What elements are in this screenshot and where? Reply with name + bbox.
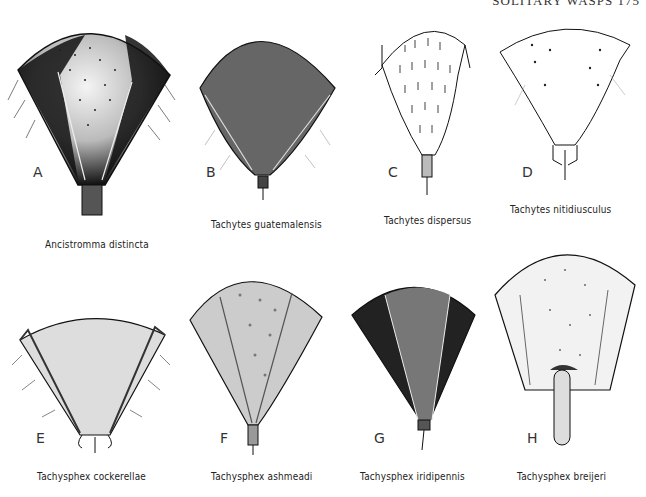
caption-h: Tachysphex breijeri (517, 470, 606, 482)
caption-d: Tachytes nitidiusculus (510, 203, 611, 215)
caption-e: Tachysphex cockerellae (37, 470, 146, 482)
caption-a: Ancistromma distincta (45, 238, 149, 250)
caption-c: Tachytes dispersus (384, 214, 471, 226)
caption-f: Tachysphex ashmeadi (211, 470, 313, 482)
figure-label-g: G (374, 430, 385, 446)
figure-label-b: B (206, 164, 216, 180)
figure-label-a: A (33, 164, 43, 180)
caption-g: Tachysphex iridipennis (360, 470, 465, 482)
figure-label-c: C (388, 164, 398, 180)
figure-label-f: F (220, 430, 228, 446)
caption-b: Tachytes guatemalensis (211, 218, 322, 230)
figure-label-e: E (36, 430, 45, 446)
figure-label-h: H (527, 430, 538, 446)
figure-label-d: D (522, 164, 533, 180)
